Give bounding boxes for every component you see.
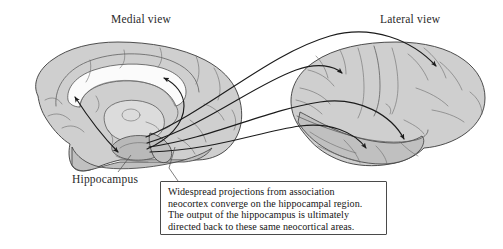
lateral-view-brain [291, 42, 485, 166]
caption-line-4: directed back to these same neocortical … [168, 221, 380, 233]
caption-line-2: neocortex converge on the hippocampal re… [168, 198, 380, 210]
caption-line-3: The output of the hippocampus is ultimat… [168, 209, 380, 221]
medial-view-brain [36, 42, 242, 171]
hippocampus-label: Hippocampus [72, 173, 138, 185]
caption-box: Widespread projections from association … [160, 181, 387, 235]
caption-line-1: Widespread projections from association [168, 186, 380, 198]
medial-view-label: Medial view [111, 13, 171, 25]
lateral-view-label: Lateral view [380, 13, 440, 25]
brain-connectivity-figure: Medial view Lateral view Hippocampus Wid… [0, 0, 503, 249]
